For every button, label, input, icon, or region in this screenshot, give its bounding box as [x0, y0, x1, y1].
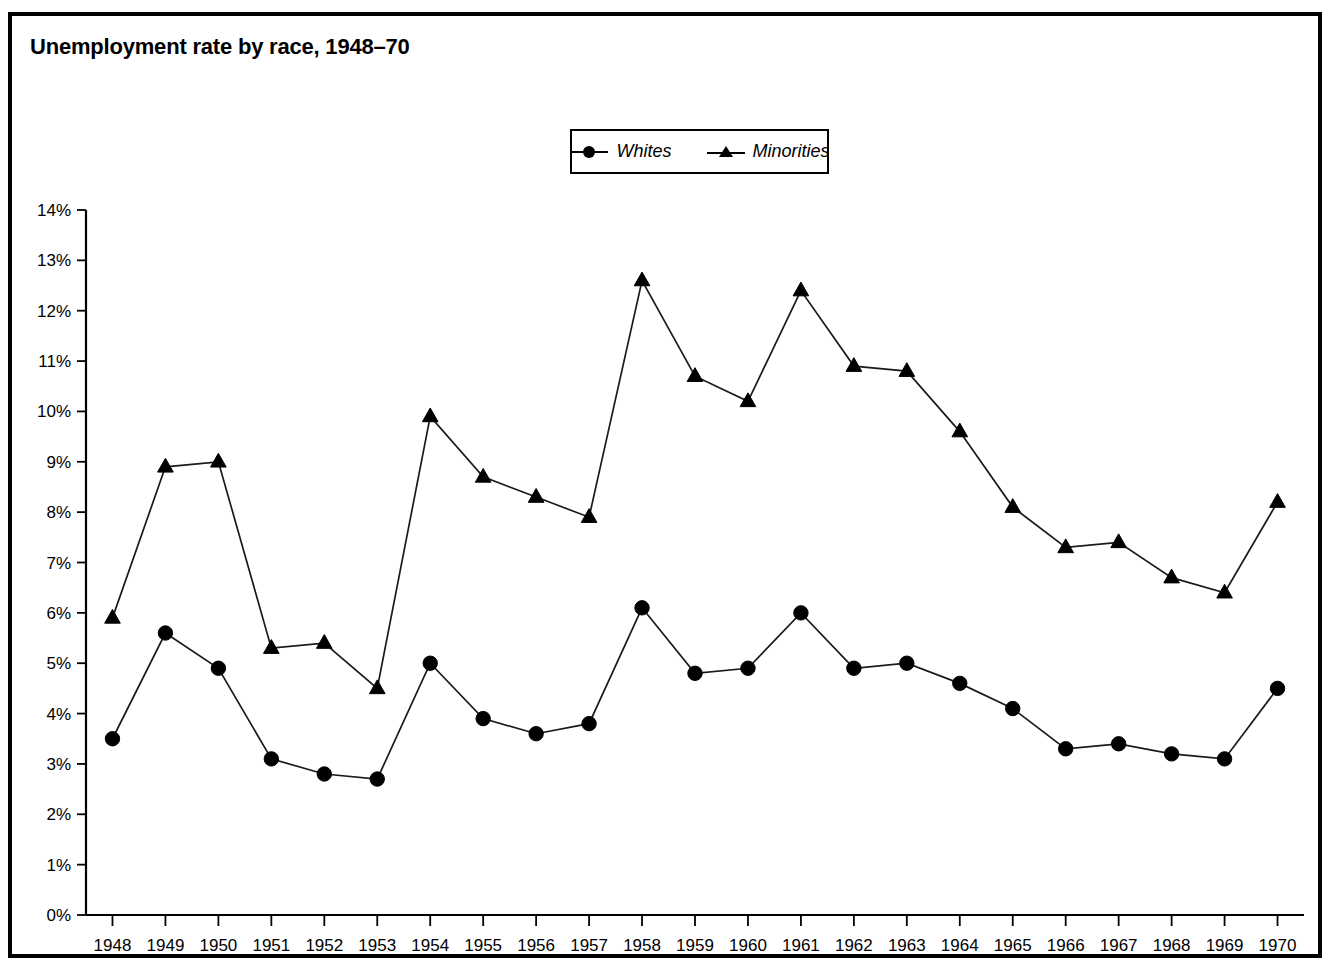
data-point [316, 635, 332, 649]
data-point [1164, 569, 1180, 583]
data-point [953, 676, 967, 690]
data-point [158, 626, 172, 640]
data-point [1006, 701, 1020, 715]
y-axis-tick-label: 13% [37, 251, 71, 270]
y-axis-tick-label: 10% [37, 402, 71, 421]
data-point [158, 458, 174, 472]
x-axis-tick-label: 1950 [199, 936, 237, 955]
data-point [476, 711, 490, 725]
series-minorities [105, 272, 1286, 694]
data-point [317, 767, 331, 781]
data-point [688, 666, 702, 680]
data-point [529, 727, 543, 741]
data-point [1058, 539, 1074, 553]
x-axis-tick-label: 1961 [782, 936, 820, 955]
y-axis-tick-label: 3% [46, 755, 71, 774]
data-point [1111, 534, 1127, 548]
data-point [793, 282, 809, 296]
x-axis-tick-label: 1968 [1153, 936, 1191, 955]
y-axis-tick-label: 1% [46, 856, 71, 875]
y-axis-tick-label: 2% [46, 805, 71, 824]
y-axis-tick-label: 7% [46, 554, 71, 573]
data-point [1164, 747, 1178, 761]
circle-marker-icon [569, 144, 609, 160]
x-axis-tick-label: 1966 [1047, 936, 1085, 955]
x-axis-tick-label: 1963 [888, 936, 926, 955]
data-point [369, 680, 385, 694]
series-line [112, 281, 1277, 689]
x-axis-tick-label: 1964 [941, 936, 979, 955]
y-axis-tick-label: 6% [46, 604, 71, 623]
legend-label-whites: Whites [616, 141, 671, 162]
x-axis-tick-label: 1948 [94, 936, 132, 955]
data-point [211, 661, 225, 675]
y-axis-tick-label: 8% [46, 503, 71, 522]
x-axis-tick-label: 1953 [358, 936, 396, 955]
x-axis-tick-label: 1969 [1206, 936, 1244, 955]
data-point [847, 661, 861, 675]
triangle-marker-icon [706, 144, 746, 160]
x-axis-tick-label: 1957 [570, 936, 608, 955]
data-point [1270, 681, 1284, 695]
legend-label-minorities: Minorities [753, 141, 830, 162]
x-axis-tick-label: 1970 [1259, 936, 1297, 955]
data-point [794, 606, 808, 620]
data-point [264, 752, 278, 766]
x-axis-tick-label: 1952 [305, 936, 343, 955]
x-axis-tick-label: 1955 [464, 936, 502, 955]
x-axis-tick-label: 1962 [835, 936, 873, 955]
data-point [687, 368, 703, 382]
data-point [1217, 752, 1231, 766]
data-point [1270, 494, 1286, 508]
legend-item-whites: Whites [569, 141, 671, 162]
data-point [370, 772, 384, 786]
y-axis-tick-label: 11% [38, 352, 71, 371]
data-point [635, 601, 649, 615]
x-axis-tick-label: 1960 [729, 936, 767, 955]
data-point [211, 453, 227, 467]
x-axis-tick-label: 1965 [994, 936, 1032, 955]
y-axis-tick-label: 4% [46, 705, 71, 724]
data-point [264, 640, 280, 654]
data-point [582, 716, 596, 730]
data-point [105, 609, 121, 623]
y-axis-tick-label: 9% [46, 453, 71, 472]
legend-item-minorities: Minorities [706, 141, 830, 162]
data-point [422, 408, 438, 422]
data-point [1111, 737, 1125, 751]
x-axis-tick-label: 1958 [623, 936, 661, 955]
data-point [899, 363, 915, 377]
y-axis-tick-label: 0% [46, 906, 71, 925]
x-axis-tick-label: 1949 [147, 936, 185, 955]
data-point [741, 661, 755, 675]
series-whites [105, 601, 1284, 787]
data-point [634, 272, 650, 286]
y-axis-tick-label: 5% [46, 654, 71, 673]
data-point [1059, 742, 1073, 756]
data-point [423, 656, 437, 670]
chart-legend: Whites Minorities [570, 129, 829, 174]
x-axis-tick-label: 1967 [1100, 936, 1138, 955]
chart-figure: Unemployment rate by race, 1948–70 0%1%2… [8, 12, 1322, 958]
x-axis-tick-label: 1959 [676, 936, 714, 955]
y-axis-tick-label: 14% [37, 201, 71, 220]
x-axis-tick-label: 1956 [517, 936, 555, 955]
x-axis-tick-label: 1954 [411, 936, 449, 955]
data-point [740, 393, 756, 407]
data-point [105, 732, 119, 746]
y-axis-tick-label: 12% [37, 302, 71, 321]
data-point [900, 656, 914, 670]
series-line [112, 608, 1277, 779]
x-axis-tick-label: 1951 [252, 936, 290, 955]
